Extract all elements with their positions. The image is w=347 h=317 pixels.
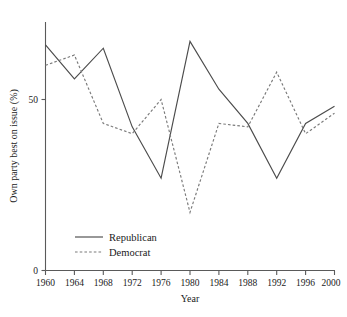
x-tick-label-1968: 1968 [94, 278, 113, 288]
chart-legend: Republican Democrat [75, 232, 158, 258]
series-line-republican [46, 41, 335, 178]
x-tick-label-1964: 1964 [65, 278, 84, 288]
x-tick-label-2000: 2000 [322, 278, 341, 288]
y-axis-title: Own party best on issue (%) [8, 89, 20, 203]
x-tick-label-1976: 1976 [152, 278, 171, 288]
series-line-democrat [46, 55, 335, 212]
x-axis-title: Year [181, 293, 200, 304]
x-tick-label-1972: 1972 [123, 278, 142, 288]
legend-label-republican: Republican [109, 232, 158, 243]
x-tick-label-1996: 1996 [296, 278, 315, 288]
x-tick-label-1980: 1980 [181, 278, 200, 288]
y-tick-label-50: 50 [29, 95, 39, 105]
y-tick-group: 50 0 [29, 95, 46, 276]
x-tick-label-1988: 1988 [238, 278, 257, 288]
x-tick-label-1992: 1992 [267, 278, 286, 288]
x-tick-label-1960: 1960 [36, 278, 55, 288]
legend-label-democrat: Democrat [109, 247, 150, 258]
x-tick-label-1984: 1984 [209, 278, 228, 288]
y-tick-label-0: 0 [33, 266, 38, 276]
chart-figure: 50 0 1960 1964 1968 1972 1976 1980 1984 … [0, 0, 347, 317]
x-tick-group: 1960 1964 1968 1972 1976 1980 1984 1988 … [36, 271, 341, 289]
line-chart-canvas: 50 0 1960 1964 1968 1972 1976 1980 1984 … [0, 0, 347, 317]
